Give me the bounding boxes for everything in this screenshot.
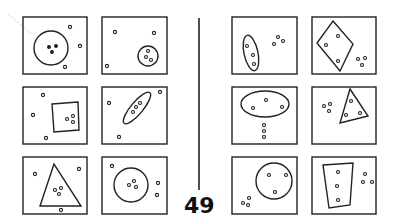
panel-left-2 <box>102 17 167 74</box>
panel-right-6 <box>312 157 376 214</box>
panel-left-4 <box>102 87 167 144</box>
panel-right-2 <box>312 17 376 74</box>
problem-number: 49 <box>184 193 215 218</box>
panel-right-4 <box>312 87 376 144</box>
bongard-diagram <box>0 0 397 223</box>
panel-right-1 <box>232 17 297 74</box>
dots <box>31 25 373 211</box>
panel-right-5 <box>232 157 297 214</box>
panel-left-5 <box>23 157 87 214</box>
